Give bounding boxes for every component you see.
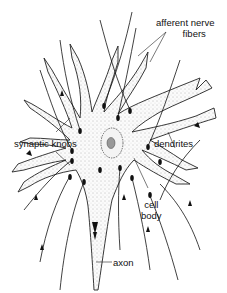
- nucleolus: [107, 138, 115, 149]
- label-afferent-nerve-fibers: afferent nerve fibers: [156, 17, 214, 39]
- label-dendrites: dendrites: [154, 138, 193, 149]
- afferent-line-1: afferent nerve: [156, 17, 214, 28]
- label-synaptic-knobs: synaptic knobs: [14, 138, 77, 149]
- label-cell-body: cell body: [141, 199, 162, 221]
- cell-body-shape: [12, 44, 216, 290]
- cell-line-1: cell: [141, 199, 162, 210]
- label-axon: axon: [113, 257, 134, 268]
- cell-line-2: body: [141, 210, 162, 221]
- afferent-line-2: fibers: [156, 28, 214, 39]
